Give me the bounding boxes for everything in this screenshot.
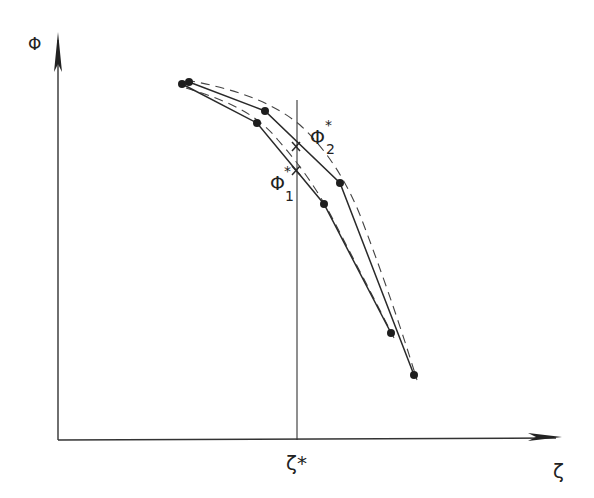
svg-text:*: *: [284, 163, 291, 179]
data-point: [253, 119, 261, 127]
data-point: [185, 78, 193, 86]
curve-2-points: [185, 78, 418, 379]
data-point: [261, 107, 269, 115]
svg-text:1: 1: [285, 188, 294, 204]
data-point: [387, 329, 395, 337]
cross-mark-phi2-icon: [292, 142, 300, 151]
svg-text:Φ: Φ: [270, 172, 285, 194]
phi2-star-label: Φ * 2: [310, 117, 335, 157]
svg-text:Φ: Φ: [310, 126, 325, 148]
data-point: [410, 371, 418, 379]
curve-2-dashed: [186, 80, 417, 380]
data-point: [178, 80, 186, 88]
x-axis-label: ζ: [553, 459, 564, 483]
y-axis: [54, 32, 62, 440]
x-axis: [58, 433, 562, 441]
zeta-star-label: ζ*: [286, 451, 307, 475]
x-axis-arrow-icon: [528, 433, 562, 441]
curve-1-dashed: [186, 88, 394, 338]
y-axis-label: Φ: [28, 34, 41, 54]
phi1-star-label: Φ * 1: [270, 163, 294, 204]
data-point: [336, 179, 344, 187]
svg-text:2: 2: [326, 141, 335, 157]
cross-mark-phi1-icon: [292, 166, 300, 175]
diagram-canvas: Φ ζ ζ* Φ * 2 Φ * 1: [0, 0, 594, 498]
curve-1-solid: [182, 84, 391, 333]
svg-text:*: *: [325, 117, 332, 133]
data-point: [320, 200, 328, 208]
curve-1-points: [178, 80, 395, 337]
